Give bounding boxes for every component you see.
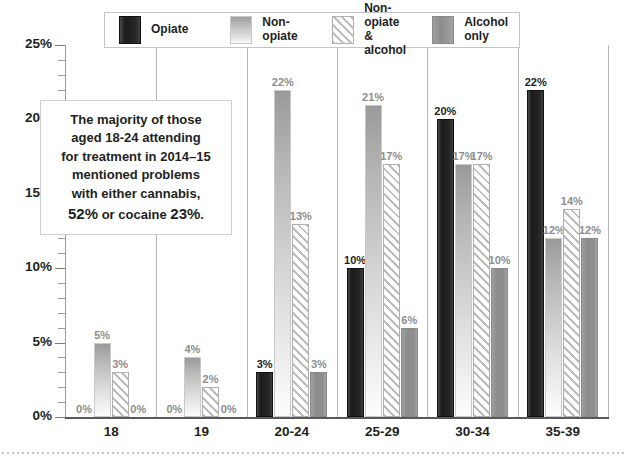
y-axis-label-0: 0%: [0, 408, 52, 423]
bar-label-20-24-non-opiate: 22%: [266, 76, 299, 88]
bar-20-24-non-opiate[interactable]: [274, 90, 291, 417]
legend-item-alcohol-only[interactable]: Alcohol only: [432, 16, 511, 44]
legend-swatch-opiate-icon: [119, 16, 141, 44]
y-axis-minor-tick: [58, 402, 65, 403]
footer-dotted-rule: [2, 452, 626, 454]
bar-19-non-opiate[interactable]: [184, 357, 201, 417]
legend-swatch-non-opiate-icon: [230, 16, 252, 44]
annotation-line-4: mentioned problems: [49, 166, 223, 184]
y-axis-minor-tick: [58, 313, 65, 314]
legend-swatch-alcohol-only-icon: [432, 16, 454, 44]
x-axis-label-20-24: 20-24: [247, 424, 337, 439]
x-axis-label-35-39: 35-39: [518, 424, 608, 439]
bar-label-30-34-opiate: 20%: [429, 105, 462, 117]
bar-35-39-opiate[interactable]: [527, 90, 544, 417]
y-axis-major-tick: [55, 45, 65, 46]
x-axis-label-18: 18: [66, 424, 156, 439]
bar-label-20-24-non-opiate-alcohol: 13%: [284, 210, 317, 222]
annotation-line6-end: .: [200, 207, 204, 222]
bar-label-20-24-alcohol-only: 3%: [302, 358, 335, 370]
bar-35-39-non-opiate-alcohol[interactable]: [563, 209, 580, 417]
y-axis-minor-tick: [58, 372, 65, 373]
legend-item-non-opiate-alcohol[interactable]: Non-opiate& alcohol: [332, 2, 406, 57]
annotation-line-2: aged 18-24 attending: [49, 129, 223, 147]
bar-20-24-opiate[interactable]: [256, 372, 273, 417]
y-axis-minor-tick: [58, 298, 65, 299]
bar-30-34-opiate[interactable]: [437, 119, 454, 417]
bar-label-18-non-opiate: 5%: [86, 329, 119, 341]
bar-30-34-non-opiate[interactable]: [455, 164, 472, 417]
annotation-cannabis-pct: 52%: [68, 205, 98, 222]
x-axis-label-25-29: 25-29: [337, 424, 427, 439]
bar-label-35-39-non-opiate-alcohol: 14%: [555, 195, 588, 207]
annotation-line-5: with either cannabis,: [49, 185, 223, 203]
bar-25-29-non-opiate-alcohol[interactable]: [383, 164, 400, 417]
legend-label-non-opiate-alcohol-line-2: & alcohol: [364, 30, 406, 58]
y-axis-label-10: 10%: [0, 259, 52, 274]
y-axis-label-5: 5%: [0, 334, 52, 349]
bar-18-non-opiate[interactable]: [94, 343, 111, 417]
bar-label-18-non-opiate-alcohol: 3%: [104, 358, 137, 370]
annotation-line-3: for treatment in 2014–15: [49, 148, 223, 166]
x-axis-label-19: 19: [156, 424, 246, 439]
y-axis-major-tick: [55, 417, 65, 418]
group-separator: [608, 45, 609, 417]
y-axis-minor-tick: [58, 283, 65, 284]
bar-label-18-alcohol-only: 0%: [122, 403, 155, 415]
x-axis-label-30-34: 30-34: [427, 424, 517, 439]
bar-label-35-39-alcohol-only: 12%: [573, 224, 606, 236]
y-axis-minor-tick: [58, 90, 65, 91]
bar-30-34-non-opiate-alcohol[interactable]: [473, 164, 490, 417]
bar-30-34-alcohol-only[interactable]: [491, 268, 508, 417]
bar-label-25-29-non-opiate: 21%: [357, 91, 390, 103]
bar-25-29-opiate[interactable]: [347, 268, 364, 417]
bar-label-19-alcohol-only: 0%: [212, 403, 245, 415]
y-axis-minor-tick: [58, 238, 65, 239]
annotation-line-1: The majority of those: [49, 111, 223, 129]
bar-label-25-29-non-opiate-alcohol: 17%: [375, 150, 408, 162]
y-axis-minor-tick: [58, 253, 65, 254]
legend-swatch-non-opiate-alcohol-icon: [332, 16, 354, 44]
y-axis-minor-tick: [58, 75, 65, 76]
y-axis-major-tick: [55, 268, 65, 269]
legend-item-non-opiate[interactable]: Non-opiate: [230, 16, 302, 44]
bar-label-30-34-alcohol-only: 10%: [483, 254, 516, 266]
legend-label-non-opiate-alcohol-line-1: Non-opiate: [364, 2, 406, 30]
bar-label-30-34-non-opiate-alcohol: 17%: [465, 150, 498, 162]
bar-label-25-29-alcohol-only: 6%: [393, 314, 426, 326]
y-axis-label-25: 25%: [0, 36, 52, 51]
annotation-line6-mid: or cocaine: [98, 207, 170, 222]
y-axis-major-tick: [55, 343, 65, 344]
bar-chart: 0%5%10%15%20%25% 0%5%3%0%0%4%2%0%3%22%13…: [0, 0, 628, 464]
y-axis-minor-tick: [58, 357, 65, 358]
y-axis-minor-tick: [58, 387, 65, 388]
bar-35-39-non-opiate[interactable]: [545, 238, 562, 417]
annotation-cocaine-pct: 23%: [170, 205, 200, 222]
bar-25-29-alcohol-only[interactable]: [401, 328, 418, 417]
bar-20-24-alcohol-only[interactable]: [310, 372, 327, 417]
bar-label-19-non-opiate-alcohol: 2%: [194, 373, 227, 385]
chart-legend: Opiate Non-opiate Non-opiate& alcohol Al…: [104, 12, 520, 48]
legend-label-non-opiate: Non-opiate: [262, 16, 302, 44]
legend-label-non-opiate-alcohol: Non-opiate& alcohol: [364, 2, 406, 57]
annotation-callout: The majority of those aged 18-24 attendi…: [40, 100, 232, 235]
bar-20-24-non-opiate-alcohol[interactable]: [292, 224, 309, 417]
x-axis-line: [65, 417, 609, 419]
bar-35-39-alcohol-only[interactable]: [581, 238, 598, 417]
annotation-line-6: 52% or cocaine 23%.: [49, 203, 223, 224]
y-axis-minor-tick: [58, 60, 65, 61]
y-axis-minor-tick: [58, 328, 65, 329]
legend-label-alcohol-only: Alcohol only: [464, 16, 511, 44]
bar-label-19-non-opiate: 4%: [176, 343, 209, 355]
legend-item-opiate[interactable]: Opiate: [119, 16, 188, 44]
legend-label-opiate: Opiate: [151, 23, 188, 37]
bar-label-35-39-opiate: 22%: [519, 76, 552, 88]
